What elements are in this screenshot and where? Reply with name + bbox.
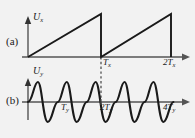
panel-a-y-axis-arrow <box>25 16 31 24</box>
sawtooth-waveform-trace <box>28 14 171 57</box>
panel-a-tick-label-2tx: 2Tx <box>163 58 175 67</box>
panel-b-tick-ty-sub: y <box>66 106 69 113</box>
panel-b-tick-label-2ty: 2Ty <box>100 103 112 112</box>
panel-b-y-axis-arrow <box>25 78 31 86</box>
panel-a-tick-tx-sub: x <box>108 61 111 68</box>
panel-b-tick-2ty-sub: y <box>110 106 113 113</box>
panel-a-tick-2tx-main: 2T <box>163 57 173 67</box>
panel-a-tag: (a) <box>6 36 18 47</box>
panel-b-tag: (b) <box>6 95 19 106</box>
panel-a-tick-2tx-sub: x <box>173 61 176 68</box>
panel-a-y-axis-label: Ux <box>33 12 43 22</box>
panel-a-tick-label-tx: Tx <box>103 58 111 67</box>
panel-b-tick-2ty-main: 2T <box>100 102 110 112</box>
panel-b-y-axis-label: Uy <box>33 66 43 76</box>
panel-b-tick-label-ty: Ty <box>61 103 69 112</box>
panel-a-x-axis-arrow <box>182 54 190 61</box>
panel-b-tick-label-4ty: 4Ty <box>163 103 175 112</box>
panel-b-x-axis-arrow <box>182 99 190 106</box>
oscilloscope-waveform-figure: (a) Ux Tx 2Tx (b) Uy Ty 2Ty 4Ty <box>0 0 195 138</box>
panel-b-tick-4ty-sub: y <box>173 106 176 113</box>
figure-canvas <box>0 0 195 138</box>
panel-b-tick-4ty-main: 4T <box>163 102 173 112</box>
panel-a-y-axis-label-sub: x <box>40 16 43 23</box>
panel-b-y-axis-label-sub: y <box>40 70 43 77</box>
